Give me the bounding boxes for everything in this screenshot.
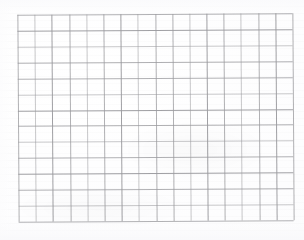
grid-line-horizontal <box>18 61 293 64</box>
grid-line-horizontal <box>18 109 293 112</box>
grid-line-horizontal <box>19 204 294 207</box>
grid-line-horizontal <box>18 172 293 175</box>
grid-horizontal-lines <box>17 13 293 222</box>
grid-line-horizontal <box>18 93 293 96</box>
grid-paper-area <box>17 13 293 222</box>
grid-line-horizontal <box>19 220 294 223</box>
grid-line-horizontal <box>17 29 292 32</box>
grid-line-horizontal <box>18 124 293 127</box>
grid-line-horizontal <box>18 156 293 159</box>
grid-line-horizontal <box>18 77 293 80</box>
grid-line-horizontal <box>18 188 293 191</box>
grid-line-horizontal <box>18 140 293 143</box>
grid-line-horizontal <box>18 45 293 48</box>
scanned-page <box>0 0 304 240</box>
grid-line-horizontal <box>17 13 292 16</box>
